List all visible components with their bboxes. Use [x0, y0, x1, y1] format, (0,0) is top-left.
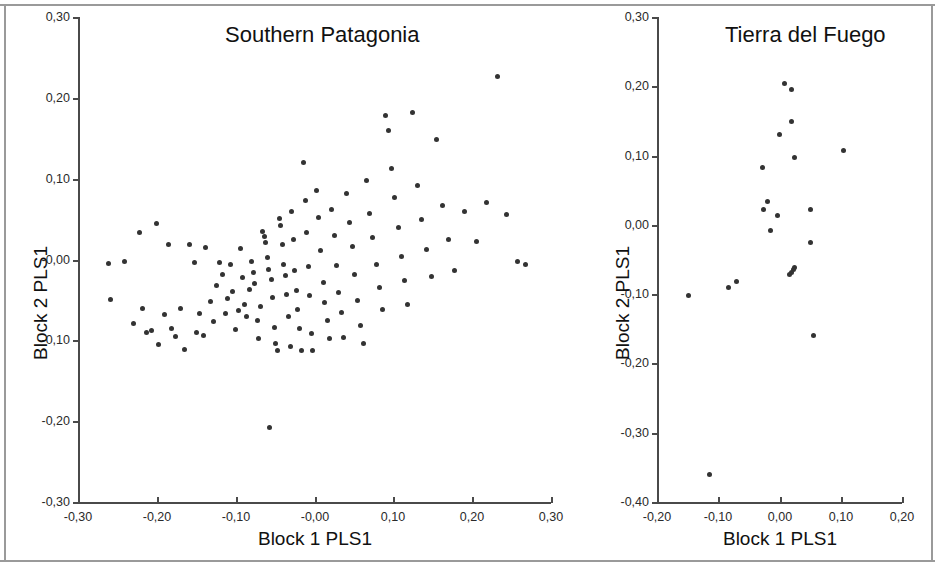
data-point: [367, 211, 372, 216]
data-point: [339, 310, 344, 315]
data-point: [140, 306, 145, 311]
x-tick-right: [657, 497, 659, 503]
x-tick-label-right: 0,20: [877, 510, 927, 524]
data-point: [208, 299, 213, 304]
data-point: [269, 277, 274, 282]
data-point: [495, 74, 500, 79]
data-point: [223, 311, 228, 316]
data-point: [203, 245, 208, 250]
data-point: [364, 178, 369, 183]
data-point: [726, 285, 731, 290]
y-tick-left: [73, 340, 79, 342]
data-point: [392, 195, 397, 200]
data-point: [286, 314, 291, 319]
data-point: [309, 331, 314, 336]
data-point: [396, 225, 401, 230]
data-point: [318, 248, 323, 253]
y-tick-label-left: -0,20: [26, 414, 70, 428]
data-point: [137, 230, 142, 235]
data-point: [344, 191, 349, 196]
x-tick-right: [841, 497, 843, 503]
y-tick-left: [73, 98, 79, 100]
data-point: [383, 113, 388, 118]
data-point: [252, 281, 257, 286]
data-point: [201, 333, 206, 338]
chart-title-tierra-del-fuego: Tierra del Fuego: [725, 22, 886, 48]
data-point: [108, 297, 113, 302]
data-point: [284, 292, 289, 297]
data-point: [260, 229, 265, 234]
y-tick-left: [73, 179, 79, 181]
data-point: [294, 288, 299, 293]
data-point: [182, 347, 187, 352]
data-point: [240, 275, 245, 280]
x-tick-label-left: -0,30: [53, 510, 103, 524]
data-point: [350, 244, 355, 249]
x-tick-left: [393, 497, 395, 503]
data-point: [295, 307, 300, 312]
y-tick-label-right: -0,30: [605, 426, 649, 440]
data-point: [194, 330, 199, 335]
data-point: [247, 287, 252, 292]
data-point: [197, 311, 202, 316]
data-point: [301, 160, 306, 165]
data-point: [402, 278, 407, 283]
y-tick-right: [652, 17, 658, 19]
data-point: [265, 255, 270, 260]
y-tick-label-right: 0,00: [605, 218, 649, 232]
data-point: [310, 348, 315, 353]
data-point: [306, 264, 311, 269]
data-point: [792, 155, 797, 160]
x-tick-left: [551, 497, 553, 503]
x-tick-left: [472, 497, 474, 503]
data-point: [273, 341, 278, 346]
data-point: [291, 237, 296, 242]
data-point: [304, 230, 309, 235]
data-point: [270, 295, 275, 300]
y-tick-right: [652, 225, 658, 227]
data-point: [399, 254, 404, 259]
data-point: [244, 314, 249, 319]
data-point: [242, 302, 247, 307]
data-point: [154, 221, 159, 226]
data-point: [782, 81, 787, 86]
y-tick-label-right: -0,40: [605, 495, 649, 509]
data-point: [230, 289, 235, 294]
data-point: [187, 242, 192, 247]
data-point: [415, 183, 420, 188]
data-point: [332, 233, 337, 238]
y-tick-left: [73, 17, 79, 19]
data-point: [686, 293, 691, 298]
x-tick-label-left: 0,20: [447, 510, 497, 524]
x-tick-left: [315, 497, 317, 503]
data-point: [289, 209, 294, 214]
data-point: [347, 220, 352, 225]
x-tick-label-left: 0,30: [526, 510, 576, 524]
data-point: [272, 325, 277, 330]
data-point: [760, 165, 765, 170]
data-point: [789, 119, 794, 124]
y-tick-right: [652, 363, 658, 365]
data-point: [358, 323, 363, 328]
data-point: [325, 318, 330, 323]
y-tick-label-right: 0,10: [605, 149, 649, 163]
data-point: [327, 336, 332, 341]
data-point: [162, 312, 167, 317]
data-point: [336, 290, 341, 295]
data-point: [249, 259, 254, 264]
data-point: [314, 188, 319, 193]
data-point: [386, 128, 391, 133]
data-point: [297, 326, 302, 331]
data-point: [424, 247, 429, 252]
data-point: [777, 132, 782, 137]
data-point: [355, 298, 360, 303]
data-point: [768, 228, 773, 233]
y-tick-label-left: 0,20: [26, 91, 70, 105]
data-point: [734, 279, 739, 284]
data-point: [278, 223, 283, 228]
data-point: [322, 300, 327, 305]
x-tick-right: [718, 497, 720, 503]
data-point: [169, 326, 174, 331]
data-point: [280, 242, 285, 247]
data-point: [131, 321, 136, 326]
